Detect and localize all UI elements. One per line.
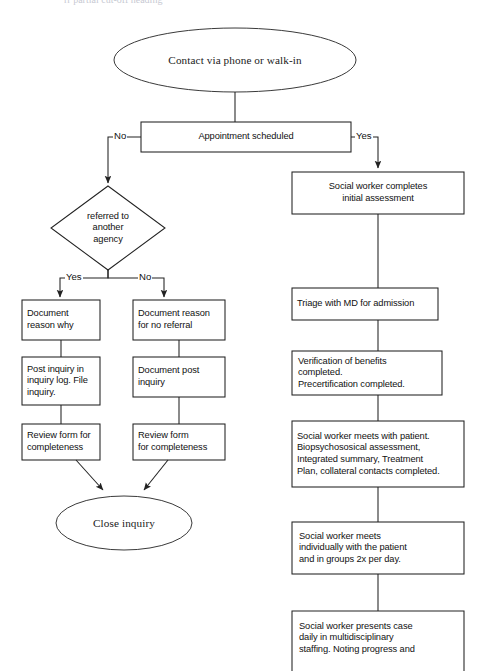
document-reason-no-referral-rect-shape (133, 300, 225, 340)
document-post-inquiry-rect-shape (133, 357, 225, 397)
appointment-rect-shape (141, 122, 351, 152)
presents-case-rect-shape (292, 611, 464, 671)
flowchart-page: rr partial cut-off heading (0, 0, 483, 671)
edge-reviewmiddle-to-close (144, 460, 168, 490)
review-form-middle-rect-shape (133, 424, 225, 460)
flowchart-canvas (0, 0, 483, 671)
edge-referral-no (108, 270, 164, 297)
start-ellipse-shape (114, 28, 356, 92)
close-inquiry-ellipse-shape (56, 496, 192, 550)
referral-diamond-shape (51, 186, 165, 270)
edge-appointment-no (108, 137, 141, 183)
edge-reviewleft-to-close (76, 460, 103, 490)
post-inquiry-log-rect-shape (22, 357, 100, 405)
initial-assessment-rect-shape (292, 172, 464, 214)
meets-with-patient-rect-shape (292, 421, 464, 487)
verification-benefits-rect-shape (292, 351, 442, 395)
review-form-left-rect-shape (22, 424, 100, 460)
meets-individually-rect-shape (292, 522, 464, 574)
triage-md-rect-shape (292, 288, 438, 320)
edge-appointment-yes (351, 137, 378, 168)
edge-referral-yes (60, 270, 108, 297)
document-reason-why-rect-shape (22, 300, 100, 340)
